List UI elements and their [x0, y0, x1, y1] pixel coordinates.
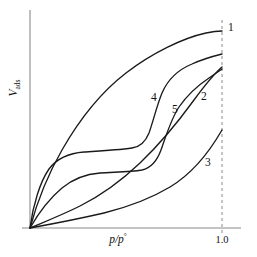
curve-label-4: 4	[151, 91, 157, 103]
curve-label-2: 2	[201, 90, 207, 102]
x-tick-label-1: 1.0	[215, 234, 228, 245]
curve-label-3: 3	[205, 156, 211, 168]
x-axis-title-main: p/p	[108, 233, 124, 246]
isotherm-curve-4	[30, 54, 222, 228]
isotherm-curve-3	[30, 130, 222, 228]
x-axis-title: p/p°	[108, 232, 127, 246]
curve-label-5: 5	[172, 103, 178, 115]
plot-canvas: 1 2 3 4 5 1.0 p/p° Vads	[0, 0, 257, 257]
curve-label-1: 1	[228, 21, 234, 33]
isotherm-curve-1	[30, 31, 222, 228]
y-axis-title-subscript: ads	[13, 79, 22, 89]
adsorption-isotherm-figure: 1 2 3 4 5 1.0 p/p° Vads	[0, 0, 257, 257]
y-axis-title: Vads	[7, 79, 22, 96]
x-axis-title-superscript: °	[124, 232, 127, 241]
